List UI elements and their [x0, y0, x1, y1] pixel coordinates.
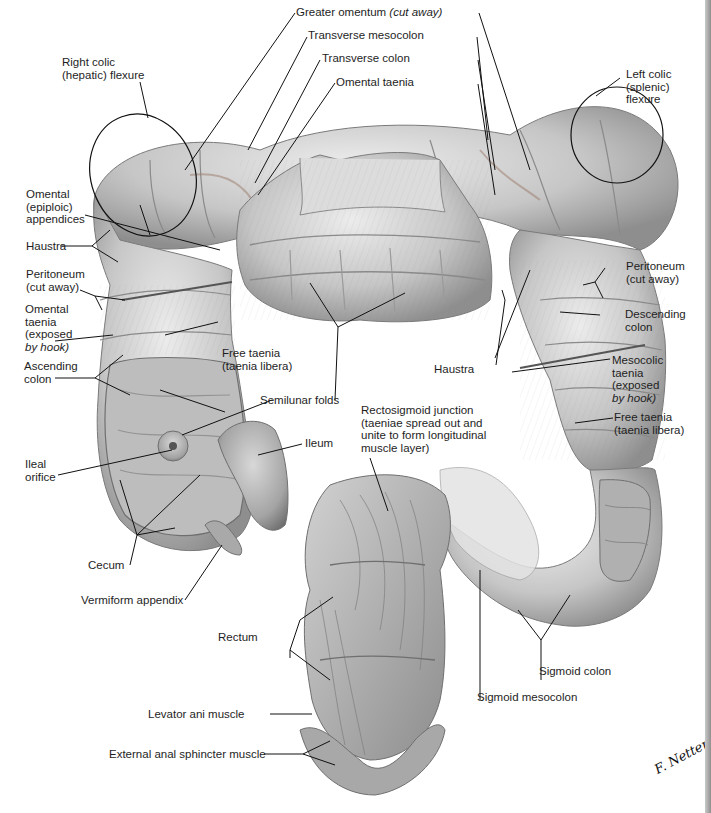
label-semilunar-folds: Semilunar folds — [260, 394, 339, 407]
label-greater-omentum: Greater omentum (cut away) — [296, 6, 442, 19]
label-sigmoid-colon: Sigmoid colon — [539, 665, 611, 678]
sigmoid-mesocolon-shape — [440, 467, 539, 580]
label-peritoneum-left: Peritoneum(cut away) — [26, 268, 85, 293]
label-free-taenia-left: Free taenia(taenia libera) — [222, 347, 292, 372]
label-mesocolic-taenia: Mesocolictaenia(exposedby hook) — [612, 354, 663, 404]
label-descending-colon: Descendingcolon — [625, 308, 686, 333]
label-vermiform-appendix: Vermiform appendix — [81, 594, 183, 607]
label-left-colic-flexure: Left colic(splenic)flexure — [626, 68, 671, 106]
label-ileum: Ileum — [305, 437, 333, 450]
label-cecum: Cecum — [88, 559, 124, 572]
label-free-taenia-right: Free taenia(taenia libera) — [614, 411, 684, 436]
label-transverse-colon: Transverse colon — [322, 52, 410, 65]
label-ascending-colon: Ascendingcolon — [24, 360, 78, 385]
label-omental-taenia-left: Omentaltaenia(exposedby hook) — [25, 303, 72, 353]
label-levator-ani: Levator ani muscle — [148, 708, 245, 721]
label-rectum: Rectum — [218, 631, 258, 644]
colon-illustration — [0, 0, 711, 813]
page-edge-strip — [705, 0, 711, 813]
label-rectosigmoid-junction: Rectosigmoid junction(taeniae spread out… — [361, 404, 486, 454]
label-transverse-mesocolon: Transverse mesocolon — [308, 29, 424, 42]
rectum-shape — [300, 475, 450, 795]
opened-transverse-colon — [237, 153, 492, 322]
label-peritoneum-right: Peritoneum(cut away) — [626, 260, 685, 285]
colon-anatomy-figure: Greater omentum (cut away) Transverse me… — [0, 0, 711, 813]
label-haustra-right: Haustra — [434, 363, 474, 376]
label-omental-appendices: Omental(epiploic)appendices — [26, 188, 85, 226]
label-haustra-left: Haustra — [26, 240, 66, 253]
label-external-anal-sphincter: External anal sphincter muscle — [109, 748, 266, 761]
label-ileal-orifice: Ilealorifice — [25, 458, 56, 483]
label-right-colic-flexure: Right colic(hepatic) flexure — [62, 56, 144, 81]
label-omental-taenia-top: Omental taenia — [336, 76, 414, 89]
label-sigmoid-mesocolon: Sigmoid mesocolon — [477, 691, 577, 704]
